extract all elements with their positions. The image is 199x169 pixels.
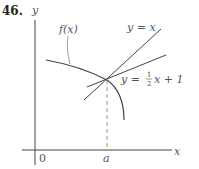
line-half-label-suffix: x + 1 <box>154 73 183 86</box>
y-axis-label: y <box>31 4 39 17</box>
origin-label: 0 <box>39 152 46 165</box>
problem-number: 46. <box>2 4 23 18</box>
line-half-label-prefix: y = <box>120 73 140 86</box>
curve-f-label: f(x) <box>58 23 78 36</box>
x-axis-label: x <box>174 145 181 158</box>
curve-label-leader <box>67 36 70 64</box>
line-y-equals-x-label: y = x <box>126 21 156 34</box>
frac-denominator: 2 <box>147 80 151 88</box>
point-a-label: a <box>103 152 110 165</box>
curve-f <box>46 60 124 120</box>
frac-numerator: 1 <box>147 71 151 79</box>
line-y-equals-x <box>84 29 161 100</box>
diagram: 46. y x 0 a f(x) y = x y = 1 2 x + 1 <box>0 0 199 169</box>
